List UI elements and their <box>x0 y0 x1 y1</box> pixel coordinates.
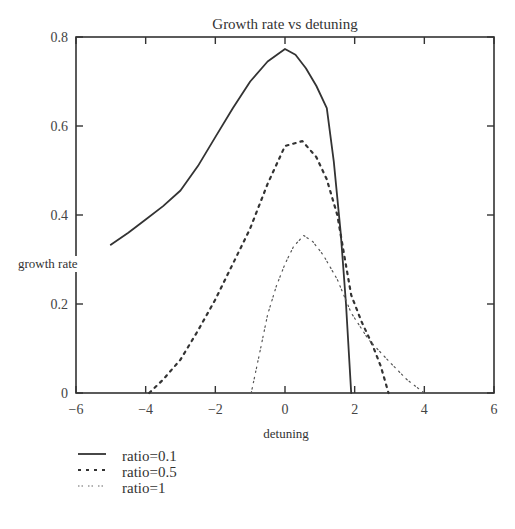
x-tick-label: 4 <box>421 402 428 417</box>
solid-line-swatch-icon <box>76 451 108 461</box>
x-tick-label: −4 <box>138 402 153 417</box>
axis-ticks <box>76 37 494 393</box>
series-lines <box>111 49 425 393</box>
series-line-0 <box>111 49 351 393</box>
legend: ratio=0.1 ratio=0.5 ratio=1 <box>76 448 177 496</box>
y-tick-label: 0 <box>61 386 68 401</box>
x-tick-label: −6 <box>69 402 84 417</box>
legend-item-ratio-0-1: ratio=0.1 <box>76 448 177 464</box>
x-tick-label: 0 <box>282 402 289 417</box>
y-tick-label: 0.2 <box>51 297 69 312</box>
x-tick-label: 2 <box>351 402 358 417</box>
x-tick-label: 6 <box>491 402 498 417</box>
legend-label: ratio=0.5 <box>122 464 177 480</box>
x-tick-label: −2 <box>208 402 223 417</box>
legend-label: ratio=0.1 <box>122 448 177 464</box>
dashdot-line-swatch-icon <box>76 483 108 493</box>
plot-frame <box>76 37 494 393</box>
y-tick-label: 0.8 <box>51 30 69 45</box>
series-line-2 <box>251 236 424 394</box>
chart-title: Growth rate vs detuning <box>212 16 358 32</box>
x-tick-labels: −6−4−20246 <box>69 402 498 417</box>
y-axis-label: growth rate <box>18 256 78 271</box>
dashed-line-swatch-icon <box>76 467 108 477</box>
x-axis-label: detuning <box>263 426 309 441</box>
y-tick-labels: 00.20.40.60.8 <box>51 30 69 401</box>
y-tick-label: 0.4 <box>51 208 69 223</box>
series-line-1 <box>149 141 388 393</box>
legend-item-ratio-0-5: ratio=0.5 <box>76 464 177 480</box>
legend-item-ratio-1: ratio=1 <box>76 480 177 496</box>
y-tick-label: 0.6 <box>51 119 69 134</box>
legend-label: ratio=1 <box>122 480 165 496</box>
